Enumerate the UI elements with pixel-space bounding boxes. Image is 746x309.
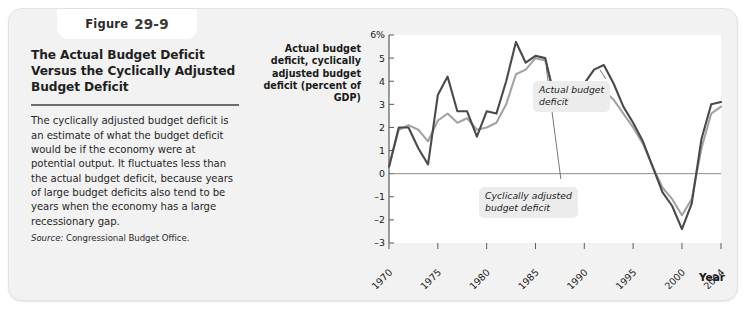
figure-card: Figure 29-9 The Actual Budget Deficit Ve…	[8, 8, 738, 301]
figure-body-text: The cyclically adjusted budget deficit i…	[31, 114, 239, 229]
svg-text:1970: 1970	[369, 267, 394, 289]
svg-text:3: 3	[379, 99, 385, 110]
svg-text:–1: –1	[374, 191, 385, 202]
figure-source: Source: Congressional Budget Office.	[31, 233, 239, 243]
figure-word: Figure	[85, 17, 128, 31]
figure-number-tab: Figure 29-9	[57, 9, 197, 39]
svg-text:1975: 1975	[418, 267, 443, 289]
figure-text-column: The Actual Budget Deficit Versus the Cyc…	[31, 47, 239, 243]
svg-text:1995: 1995	[613, 267, 638, 289]
svg-text:6%: 6%	[370, 29, 385, 40]
y-tick-labels: 6%543210–1–2–3	[370, 29, 385, 248]
svg-text:1985: 1985	[516, 267, 541, 289]
source-label: Source:	[31, 233, 63, 243]
source-text: Congressional Budget Office.	[66, 233, 189, 243]
annotation-cyclical-deficit: Cyclically adjustedbudget deficit	[479, 187, 578, 218]
title-divider	[31, 104, 239, 106]
annotation-actual-deficit: Actual budgetdeficit	[533, 81, 610, 112]
svg-text:4: 4	[379, 76, 385, 87]
svg-text:0: 0	[379, 168, 385, 179]
svg-text:2: 2	[379, 122, 385, 133]
x-tick-labels: 19701975198019851990199520002004	[369, 267, 725, 289]
figure-number: 29-9	[134, 16, 169, 32]
svg-text:2000: 2000	[662, 267, 687, 289]
plot-area: 6%543210–1–2–3 1970197519801985199019952…	[365, 27, 725, 289]
svg-text:–2: –2	[374, 214, 385, 225]
line-chart-svg: 6%543210–1–2–3 1970197519801985199019952…	[365, 27, 725, 289]
svg-text:1990: 1990	[565, 267, 590, 289]
svg-text:5: 5	[379, 53, 385, 64]
x-axis-title: Year	[699, 271, 725, 283]
svg-text:1980: 1980	[467, 267, 492, 289]
svg-text:1: 1	[379, 145, 385, 156]
figure-title: The Actual Budget Deficit Versus the Cyc…	[31, 47, 239, 95]
x-tick-marks	[389, 243, 721, 249]
svg-text:–3: –3	[374, 237, 385, 248]
chart-container: Actual budget deficit, cyclically adjust…	[257, 27, 727, 289]
y-axis-title: Actual budget deficit, cyclically adjust…	[257, 43, 361, 104]
